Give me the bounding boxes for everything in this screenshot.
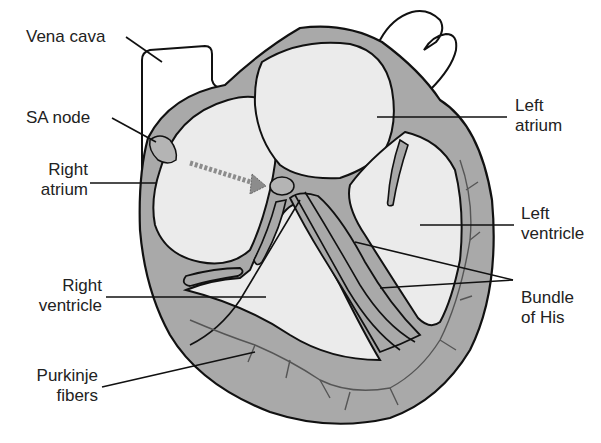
- label-sa-node: SA node: [26, 108, 90, 128]
- label-vena-cava: Vena cava: [26, 27, 105, 47]
- label-left-ventricle: Left ventricle: [521, 204, 584, 244]
- label-left-atrium: Left atrium: [515, 96, 562, 136]
- label-bundle-of-his: Bundle of His: [521, 288, 574, 328]
- av-node: [270, 177, 294, 195]
- label-right-atrium: Right atrium: [30, 160, 88, 200]
- label-right-ventricle: Right ventricle: [20, 276, 102, 316]
- label-purkinje-fibers: Purkinje fibers: [18, 366, 98, 406]
